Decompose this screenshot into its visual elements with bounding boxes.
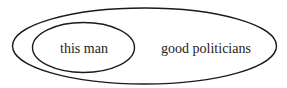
inner-set-label: this man: [60, 41, 108, 56]
outer-set-label: good politicians: [161, 41, 251, 56]
euler-diagram: this man good politicians: [0, 0, 287, 88]
